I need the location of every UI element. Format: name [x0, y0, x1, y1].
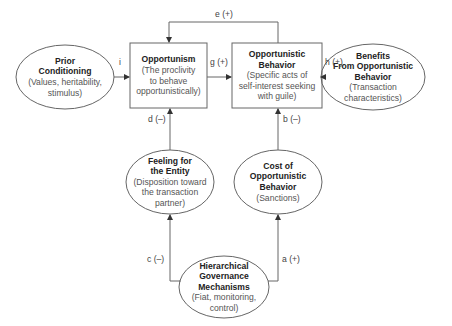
- edge-label-g: g (+): [210, 57, 228, 67]
- node-benefits: Benefits From Opportunistic Behavior (Tr…: [321, 44, 425, 110]
- node-title: Opportunism: [142, 54, 196, 65]
- edge-label-c: c (–): [147, 254, 164, 264]
- node-title: Benefits: [356, 51, 390, 62]
- node-title: Governance: [199, 271, 249, 282]
- node-subtitle: to behave: [150, 76, 188, 87]
- node-subtitle: control): [210, 303, 239, 314]
- node-subtitle: partner): [155, 198, 185, 209]
- node-cost: Cost of Opportunistic Behavior (Sanction…: [234, 150, 322, 214]
- node-title: Behavior: [259, 60, 296, 71]
- edge-label-d: d (–): [148, 114, 166, 124]
- node-title: Behavior: [355, 72, 392, 83]
- node-subtitle: the transaction: [142, 187, 198, 198]
- node-subtitle: (Transaction: [349, 82, 396, 93]
- node-subtitle: opportunistically): [136, 86, 200, 97]
- node-title: Opportunistic: [250, 171, 306, 182]
- node-title: Conditioning: [39, 66, 92, 77]
- node-title: Cost of: [263, 161, 293, 172]
- node-subtitle: (Sanctions): [256, 193, 299, 204]
- node-title: Behavior: [260, 182, 297, 193]
- node-subtitle: (Values, heritability,: [28, 77, 102, 88]
- node-subtitle: (Specific acts of: [247, 70, 308, 81]
- edge-label-i: i: [119, 57, 121, 67]
- node-subtitle: (Fiat, monitoring,: [192, 292, 256, 303]
- edge-e: [169, 22, 278, 43]
- figure-caption-cutoff: [14, 322, 264, 326]
- node-title: Hierarchical: [199, 261, 248, 272]
- node-subtitle: (The proclivity: [142, 65, 195, 76]
- edge-label-b: b (–): [283, 114, 301, 124]
- node-title: Opportunistic: [249, 49, 305, 60]
- node-title: the Entity: [150, 166, 189, 177]
- node-title: From Opportunistic: [333, 61, 413, 72]
- node-prior-conditioning: Prior Conditioning (Values, heritability…: [16, 46, 114, 108]
- edge-label-a: a (+): [282, 254, 300, 264]
- edge-label-h: h (+): [325, 57, 343, 67]
- edge-a: [268, 215, 278, 281]
- node-feeling: Feeling for the Entity (Disposition towa…: [126, 150, 214, 214]
- node-opportunism: Opportunism (The proclivity to behave op…: [130, 43, 207, 108]
- node-hierarchical: Hierarchical Governance Mechanisms (Fiat…: [179, 256, 269, 318]
- edge-label-e: e (+): [215, 9, 233, 19]
- node-subtitle: (Disposition toward: [133, 177, 206, 188]
- node-subtitle: self-interest seeking: [239, 81, 315, 92]
- node-subtitle: characteristics): [344, 93, 402, 104]
- node-subtitle: with guile): [258, 91, 297, 102]
- node-title: Mechanisms: [198, 282, 250, 293]
- node-title: Feeling for: [148, 156, 192, 167]
- node-opportunistic-behavior: Opportunistic Behavior (Specific acts of…: [232, 43, 322, 108]
- node-title: Prior: [55, 56, 75, 67]
- node-subtitle: stimulus): [48, 88, 82, 99]
